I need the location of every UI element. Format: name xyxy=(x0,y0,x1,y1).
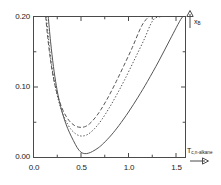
x-axis-arrow-icon xyxy=(190,158,209,164)
ytick-label-2: 0.00 xyxy=(2,152,30,161)
ytick-label-1: 0.10 xyxy=(2,82,30,91)
y-axis-title-sub: B xyxy=(198,21,201,26)
y-axis-arrow-icon xyxy=(187,11,193,29)
xtick-label-0: 0.0 xyxy=(22,163,46,172)
curve-solid-curve xyxy=(48,16,185,154)
data-curves xyxy=(46,16,186,154)
y-axis-title: xB xyxy=(194,18,201,25)
y-axis-title-main: x xyxy=(194,18,198,25)
xtick-label-2: 1.0 xyxy=(117,163,141,172)
x-axis-title-sub: c,n-alkane xyxy=(191,150,212,155)
plot-canvas xyxy=(0,0,221,185)
xtick-label-1: 0.5 xyxy=(70,163,94,172)
x-axis-title: Tc,n-alkane xyxy=(187,147,212,154)
xtick-label-3: 1.5 xyxy=(165,163,189,172)
chart-figure: 0.20 0.10 0.00 0.0 0.5 1.0 1.5 xB Tc,n-a… xyxy=(0,0,221,185)
ytick-label-0: 0.20 xyxy=(2,12,30,21)
